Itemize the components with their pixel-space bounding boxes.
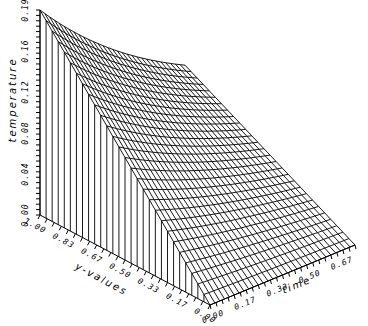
z-tick-label: 0.04 [21,162,30,185]
z-tick-label: 0.19 [21,0,30,22]
y-tick-label: 1.00 [23,216,48,235]
x-tick-label: 0.67 [329,255,354,272]
z-tick-label: 0.08 [21,121,30,144]
z-tick-label: 0.12 [21,80,30,103]
surface-plot: 0.000.040.080.120.160.191.000.830.670.50… [0,0,368,326]
y-tick-label: 0.17 [164,291,189,310]
x-tick-label: 0.17 [233,295,258,312]
surface-mesh [40,10,355,305]
z-axis-label: temperature [7,57,18,142]
z-tick-label: 0.16 [21,39,30,62]
y-tick-label: 0.83 [51,231,76,250]
y-tick-label: 0.33 [136,276,161,295]
